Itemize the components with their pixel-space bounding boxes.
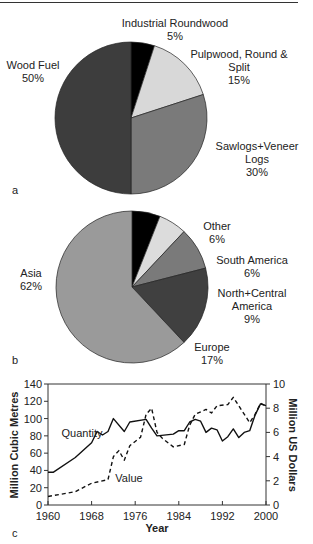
pct-europe: 17% (201, 354, 223, 366)
line-chart: 0204060801001201400246810196019681976198… (24, 378, 286, 522)
y2-tick-label: 10 (273, 378, 285, 390)
panel-label-b: b (12, 354, 18, 366)
y-tick-label: 100 (24, 413, 42, 425)
label-europe: Europe (194, 341, 229, 353)
x-tick-label: 1960 (36, 510, 60, 522)
x-tick-label: 1992 (210, 510, 234, 522)
label-sawlogs-1: Sawlogs+Veneer (216, 140, 299, 152)
panel-label-c: c (12, 527, 18, 539)
figure: Industrial Roundwood 5% Pulpwood, Round … (0, 0, 313, 544)
label-sawlogs-2: Logs (245, 153, 269, 165)
label-other: Other (203, 220, 231, 232)
x-tick-label: 1984 (167, 510, 191, 522)
label-north-central-america-1: North+Central (218, 287, 287, 299)
pie-slice-wood-fuel (55, 42, 131, 194)
pct-industrial-roundwood: 5% (167, 30, 183, 42)
panel-label-a: a (12, 184, 19, 196)
pct-other: 6% (209, 233, 225, 245)
x-tick-label: 1976 (123, 510, 147, 522)
pct-pulpwood: 15% (228, 74, 250, 86)
y2-tick-label: 2 (273, 475, 279, 487)
y-axis-title: Million Cubic Metres (8, 392, 20, 499)
chart-series (48, 397, 266, 496)
label-wood-fuel: Wood Fuel (7, 59, 60, 71)
label-south-america: South America (216, 254, 288, 266)
y-tick-label: 20 (30, 482, 42, 494)
annotation-quantity: Quantity (62, 427, 103, 439)
label-north-central-america-2: America (232, 300, 273, 312)
x-tick-label: 1968 (79, 510, 103, 522)
y-tick-label: 140 (24, 378, 42, 390)
y2-tick-label: 4 (273, 451, 279, 463)
pct-wood-fuel: 50% (22, 72, 44, 84)
pie-chart-b (56, 211, 208, 363)
series-value (48, 397, 266, 496)
y-tick-label: 80 (30, 430, 42, 442)
pct-south-america: 6% (244, 267, 260, 279)
pct-north-central-america: 9% (244, 313, 260, 325)
label-industrial-roundwood: Industrial Roundwood (122, 17, 228, 29)
pct-sawlogs: 30% (246, 166, 268, 178)
y-tick-label: 120 (24, 395, 42, 407)
pct-asia: 62% (20, 280, 42, 292)
x-tick-label: 2000 (254, 510, 278, 522)
y2-axis-title: Million US Dollars (287, 398, 299, 492)
x-axis-title: Year (145, 522, 169, 534)
label-pulpwood-1: Pulpwood, Round & (190, 48, 288, 60)
annotation-value: Value (115, 472, 142, 484)
chart-axes: 0204060801001201400246810196019681976198… (24, 378, 286, 522)
label-asia: Asia (20, 267, 42, 279)
y2-tick-label: 6 (273, 426, 279, 438)
y-tick-label: 40 (30, 464, 42, 476)
y-tick-label: 60 (30, 447, 42, 459)
pie-chart-a (55, 42, 207, 194)
y2-tick-label: 8 (273, 402, 279, 414)
label-pulpwood-2: Split (228, 61, 249, 73)
